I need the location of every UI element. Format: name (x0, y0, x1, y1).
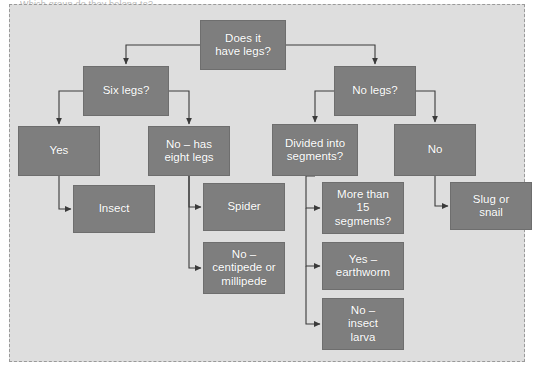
node-spider[interactable]: Spider (203, 183, 285, 231)
node-six-legs[interactable]: Six legs? (83, 66, 169, 116)
node-centipede-or-millipede[interactable]: No – centipede or millipede (203, 242, 285, 294)
node-root[interactable]: Does it have legs? (200, 20, 286, 70)
node-no-legs[interactable]: No legs? (334, 66, 416, 116)
node-no[interactable]: No (394, 124, 476, 176)
node-yes-earthworm[interactable]: Yes – earthworm (322, 242, 404, 290)
node-more-than-15-segments[interactable]: More than 15 segments? (322, 182, 404, 234)
node-segments-question[interactable]: Divided into segments? (272, 124, 358, 176)
node-yes[interactable]: Yes (18, 126, 100, 176)
node-slug-or-snail[interactable]: Slug or snail (450, 182, 532, 230)
node-insect[interactable]: Insect (73, 185, 155, 233)
flowchart-page: Which group do they belong to? (0, 0, 534, 368)
node-eight-legs[interactable]: No – has eight legs (148, 126, 230, 176)
node-no-insect-larva[interactable]: No – insect larva (322, 298, 404, 350)
